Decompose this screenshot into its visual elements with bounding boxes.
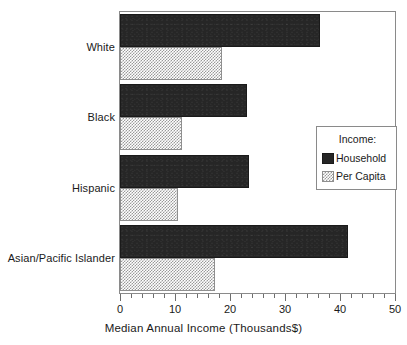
x-tick-minor-12 (186, 294, 187, 298)
bar-asian-pacific-islander-household (120, 225, 348, 258)
x-tick-minor-2 (131, 294, 132, 298)
bar-white-household (120, 14, 320, 47)
legend-label-per-capita: Per Capita (336, 171, 386, 182)
x-tick-major-20 (230, 294, 231, 301)
bar-chart: White Black Hispanic Asian/Pacific Islan… (0, 0, 407, 345)
x-tick-minor-14 (197, 294, 198, 298)
x-tick-minor-28 (274, 294, 275, 298)
x-tick-minor-16 (208, 294, 209, 298)
x-tick-minor-26 (263, 294, 264, 298)
x-tick-major-10 (175, 294, 176, 301)
x-tick-major-0 (120, 294, 121, 301)
x-tick-minor-4 (142, 294, 143, 298)
category-label-asian-pacific-islander: Asian/Pacific Islander (8, 252, 115, 264)
x-tick-minor-32 (296, 294, 297, 298)
x-tick-minor-36 (318, 294, 319, 298)
x-tick-label-40: 40 (325, 303, 355, 316)
x-tick-major-50 (395, 294, 396, 301)
bar-hispanic-per-capita (120, 188, 178, 221)
x-tick-label-0: 0 (105, 303, 135, 316)
x-tick-major-30 (285, 294, 286, 301)
x-tick-minor-24 (252, 294, 253, 298)
category-label-hispanic: Hispanic (72, 182, 115, 194)
bar-hispanic-household (120, 155, 249, 188)
legend: Income: Household Per Capita (316, 126, 397, 190)
x-tick-minor-46 (373, 294, 374, 298)
per-capita-swatch (322, 171, 334, 182)
x-tick-major-40 (340, 294, 341, 301)
x-tick-label-50: 50 (380, 303, 407, 316)
x-tick-minor-44 (362, 294, 363, 298)
category-label-black: Black (88, 111, 115, 123)
household-swatch (322, 153, 334, 164)
legend-title: Income: (317, 133, 398, 145)
x-tick-minor-22 (241, 294, 242, 298)
bar-white-per-capita (120, 47, 222, 80)
bar-asian-pacific-islander-per-capita (120, 258, 215, 291)
legend-label-household: Household (336, 153, 386, 164)
legend-entry-household[interactable]: Household (322, 152, 386, 165)
x-axis-title: Median Annual Income (Thousands$) (0, 322, 407, 334)
x-tick-label-10: 10 (160, 303, 190, 316)
x-tick-label-30: 30 (270, 303, 300, 316)
x-tick-minor-34 (307, 294, 308, 298)
x-tick-minor-42 (351, 294, 352, 298)
category-label-white: White (86, 41, 115, 53)
x-tick-minor-6 (153, 294, 154, 298)
legend-entry-per-capita[interactable]: Per Capita (322, 170, 386, 183)
x-tick-label-20: 20 (215, 303, 245, 316)
bar-black-household (120, 84, 247, 117)
x-tick-minor-48 (384, 294, 385, 298)
x-tick-minor-38 (329, 294, 330, 298)
x-tick-minor-18 (219, 294, 220, 298)
x-tick-minor-8 (164, 294, 165, 298)
bar-black-per-capita (120, 117, 182, 150)
